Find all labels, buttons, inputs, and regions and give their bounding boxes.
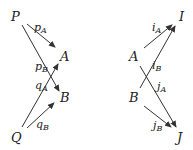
edge-pA-label: pA	[34, 21, 47, 35]
edge-jB-label: jB	[150, 119, 162, 133]
right-diagram: I A B J iA iB jA jB	[128, 9, 185, 145]
left-diagram: P A B Q pA pB qA qB	[10, 9, 70, 145]
node-B-right: B	[128, 90, 139, 105]
node-A-left: A	[59, 49, 69, 64]
edge-iA-label: iA	[152, 21, 162, 35]
node-P: P	[10, 9, 20, 24]
node-I: I	[178, 9, 185, 24]
diagram-canvas: P A B Q pA pB qA qB I A B J iA iB jA jB	[0, 0, 193, 150]
edge-qB-label: qB	[36, 118, 49, 132]
edge-iB-arrow	[140, 26, 175, 88]
edge-iB-label: iB	[152, 59, 162, 73]
edge-pB-label: pB	[35, 60, 48, 74]
node-A-right: A	[128, 49, 138, 64]
edge-qA-label: qA	[35, 79, 48, 93]
node-J: J	[174, 130, 183, 145]
edge-jA-arrow	[140, 66, 176, 127]
node-B-left: B	[59, 90, 70, 105]
node-Q: Q	[11, 130, 22, 145]
